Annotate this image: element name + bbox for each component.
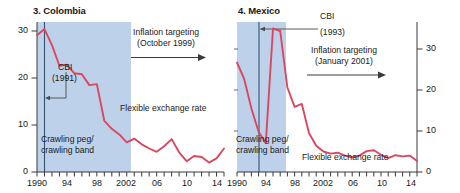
mexico-ytick-20: 20 (426, 84, 436, 94)
mexico-plot-svg (230, 0, 460, 193)
colombia-cbi-year: (1991) (52, 73, 77, 84)
colombia-regime-line2: crawling band (41, 145, 94, 156)
mexico-xtick-94: 94 (251, 178, 281, 188)
colombia-ytick-30: 30 (6, 25, 28, 35)
mexico-xtick-06: 06 (338, 178, 368, 188)
mexico-targeting-line1: Inflation targeting (296, 45, 392, 56)
mexico-ytick-10: 10 (426, 125, 436, 135)
mexico-regime-line2: crawling band (236, 145, 289, 156)
colombia-ytick-0: 0 (6, 166, 28, 176)
chart-figure: 3. Colombia (0, 0, 460, 193)
mexico-regime-line1: Crawling peg/ (236, 134, 289, 145)
colombia-x-ticks (37, 172, 224, 177)
colombia-xtick-1990: 1990 (19, 178, 55, 188)
colombia-xtick-94: 94 (52, 178, 82, 188)
mexico-xtick-1990: 1990 (219, 178, 255, 188)
colombia-targeting-line2: (October 1999) (118, 38, 214, 49)
colombia-y-ticks (32, 31, 38, 172)
mexico-cbi-label: CBI (320, 11, 334, 22)
mexico-xtick-14: 14 (396, 178, 426, 188)
panel-colombia: 3. Colombia (0, 0, 230, 193)
mexico-targeting-arrowhead (378, 72, 386, 79)
colombia-ytick-10: 10 (6, 119, 28, 129)
panel-mexico: 4. Mexico (230, 0, 460, 193)
mexico-ytick-0: 0 (426, 166, 431, 176)
mexico-ytick-30: 30 (426, 43, 436, 53)
colombia-flexible-exchange-rate: Flexible exchange rate (120, 103, 206, 114)
mexico-flexible-exchange-rate: Flexible exchange rate (302, 152, 388, 163)
mexico-xtick-2002: 2002 (305, 178, 341, 188)
colombia-xtick-06: 06 (142, 178, 172, 188)
colombia-cbi-label: CBI (58, 62, 72, 73)
mexico-xtick-10: 10 (367, 178, 397, 188)
colombia-targeting-arrowhead (198, 54, 206, 61)
mexico-cbi-year: (1993) (320, 27, 345, 38)
colombia-targeting-line1: Inflation targeting (118, 27, 214, 38)
mexico-y-ticks (417, 49, 423, 172)
mexico-targeting-line2: (January 2001) (296, 56, 392, 67)
mexico-x-ticks (237, 172, 417, 177)
colombia-ytick-20: 20 (6, 72, 28, 82)
colombia-xtick-2002: 2002 (108, 178, 144, 188)
colombia-xtick-10: 10 (172, 178, 202, 188)
colombia-regime-line1: Crawling peg/ (41, 134, 94, 145)
